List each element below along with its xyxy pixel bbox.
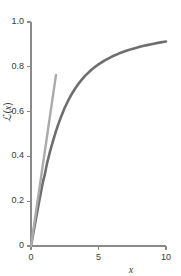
data-series-group [31, 41, 166, 246]
y-tick-label: 0.8 [0, 62, 24, 71]
y-axis-label-open-paren: ( [2, 110, 13, 113]
y-axis-label-variable: x [2, 106, 13, 110]
data-series-line [31, 41, 166, 246]
y-tick-label: 1.0 [0, 17, 24, 26]
y-axis-label-symbol: ℒ [1, 114, 14, 122]
y-tick-label: 0.2 [0, 196, 24, 205]
data-series-line [31, 75, 56, 246]
y-axis-label-close-paren: ) [2, 103, 13, 106]
x-axis-label: x [123, 265, 139, 275]
y-axis-label: ℒ(x) [3, 92, 13, 132]
x-tick-label: 10 [151, 253, 181, 262]
x-tick-label: 0 [16, 253, 46, 262]
x-axis-ticks [31, 246, 166, 250]
plot-area [0, 0, 181, 276]
y-tick-label: 0.4 [0, 151, 24, 160]
chart-figure: 00.20.40.60.81.0 0510 ℒ(x) x [0, 0, 181, 276]
x-tick-label: 5 [84, 253, 114, 262]
y-tick-label: 0 [0, 241, 24, 250]
